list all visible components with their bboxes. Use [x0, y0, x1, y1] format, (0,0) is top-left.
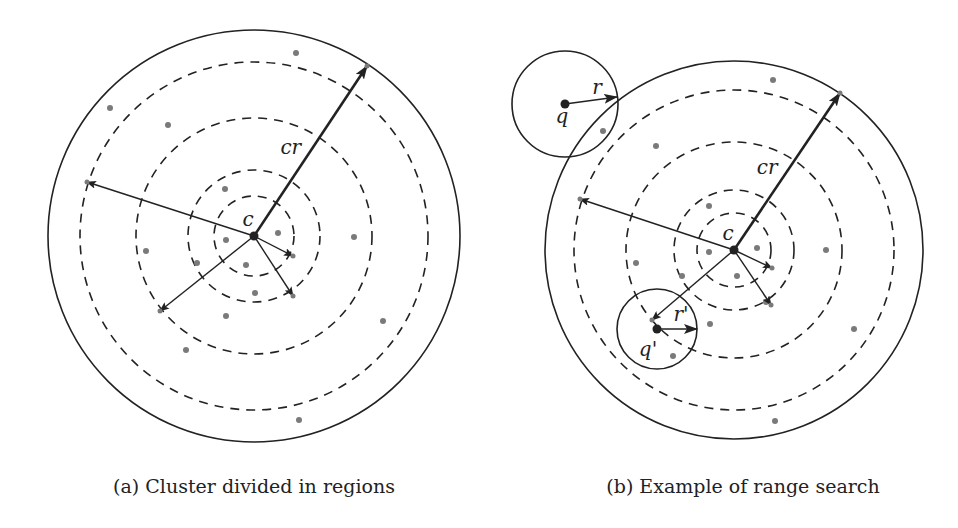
boundary-point: [769, 303, 774, 308]
panel-b-range-search: ccrqrq'r': [512, 51, 923, 439]
query-label: q: [556, 104, 569, 128]
boundary-point: [838, 91, 843, 96]
boundary-point: [365, 64, 370, 69]
data-point: [707, 321, 713, 327]
boundary-point: [578, 197, 583, 202]
boundary-arrow: [87, 182, 254, 236]
data-point: [734, 273, 740, 279]
data-point: [772, 418, 778, 424]
data-point: [223, 313, 229, 319]
data-point: [223, 237, 229, 243]
data-point: [296, 417, 302, 423]
data-point: [275, 230, 281, 236]
data-point: [706, 249, 712, 255]
data-point: [351, 234, 357, 240]
center-label: c: [722, 221, 733, 245]
data-point: [770, 77, 776, 83]
data-point: [653, 143, 659, 149]
data-point: [600, 128, 606, 134]
boundary-point: [85, 180, 90, 185]
boundary-point: [158, 309, 163, 314]
cluster-center: [730, 246, 739, 255]
data-point: [633, 260, 639, 266]
data-point: [706, 203, 712, 209]
center-label: c: [242, 207, 253, 231]
data-point: [380, 318, 386, 324]
data-point: [222, 186, 228, 192]
query2-point: [653, 325, 662, 334]
boundary-point: [770, 266, 775, 271]
cluster-center: [250, 232, 259, 241]
data-point: [194, 260, 200, 266]
data-point: [670, 353, 676, 359]
boundary-point: [291, 254, 296, 259]
data-point: [183, 347, 189, 353]
data-point: [243, 262, 249, 268]
query2-radius-label: r': [673, 302, 688, 326]
boundary-arrow: [254, 236, 293, 296]
boundary-point: [291, 294, 296, 299]
query2-label: q': [639, 337, 657, 361]
data-point: [293, 50, 299, 56]
caption-b: (b) Example of range search: [606, 475, 879, 497]
caption-a: (a) Cluster divided in regions: [113, 475, 395, 497]
radius-label-cr: cr: [757, 155, 779, 179]
query-radius-label: r: [592, 75, 603, 99]
data-point: [143, 248, 149, 254]
data-point: [252, 290, 258, 296]
data-point: [754, 245, 760, 251]
data-point: [107, 105, 113, 111]
radius-arrow-cr: [734, 93, 840, 250]
data-point: [851, 326, 857, 332]
data-point: [679, 273, 685, 279]
data-point: [823, 247, 829, 253]
panel-a-cluster-regions: ccr: [48, 30, 460, 442]
data-point: [165, 122, 171, 128]
query-radius-arrow: [565, 97, 617, 104]
radius-arrow-cr: [254, 66, 367, 236]
radius-label-cr: cr: [280, 135, 302, 159]
figure: ccr ccrqrq'r' (a) Cluster divided in reg…: [0, 0, 958, 528]
boundary-point: [650, 318, 655, 323]
